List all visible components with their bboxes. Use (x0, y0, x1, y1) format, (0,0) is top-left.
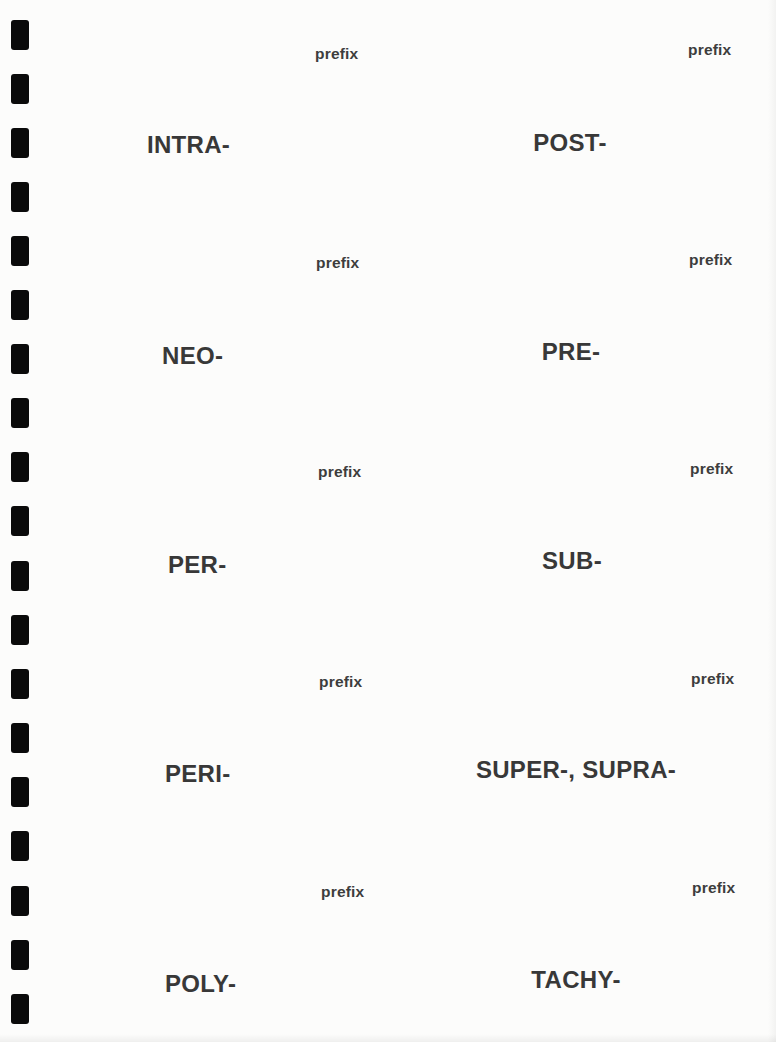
card-term-sub: SUB- (542, 547, 602, 575)
binding-hole (11, 344, 29, 374)
binding-hole (11, 128, 29, 158)
page-edge-shadow (768, 0, 776, 1042)
card-term-neo: NEO- (162, 342, 223, 370)
card-term-tachy: TACHY- (531, 966, 620, 994)
card-label-super-supra: prefix (691, 670, 734, 688)
binding-hole (11, 723, 29, 753)
binding-hole (11, 669, 29, 699)
card-label-per: prefix (318, 463, 361, 481)
binding-hole (11, 994, 29, 1024)
card-term-peri: PERI- (165, 760, 231, 788)
card-label-post: prefix (688, 41, 731, 59)
binding-hole (11, 886, 29, 916)
binding-hole (11, 831, 29, 861)
binding-hole (11, 236, 29, 266)
card-label-neo: prefix (316, 254, 359, 272)
card-label-tachy: prefix (692, 879, 735, 897)
card-label-peri: prefix (319, 673, 362, 691)
card-term-poly: POLY- (165, 970, 236, 998)
card-term-super-supra: SUPER-, SUPRA- (476, 756, 676, 784)
card-label-sub: prefix (690, 460, 733, 478)
binding-hole (11, 74, 29, 104)
binding-hole (11, 506, 29, 536)
card-label-intra: prefix (315, 45, 358, 63)
binding-hole (11, 777, 29, 807)
binding-hole (11, 290, 29, 320)
card-label-pre: prefix (689, 251, 732, 269)
binding-hole (11, 398, 29, 428)
binding-hole (11, 615, 29, 645)
card-term-intra: INTRA- (147, 131, 230, 159)
card-term-per: PER- (168, 551, 227, 579)
binding-hole (11, 561, 29, 591)
card-term-post: POST- (533, 129, 607, 157)
binding-hole (11, 182, 29, 212)
card-label-poly: prefix (321, 883, 364, 901)
binding-hole (11, 20, 29, 50)
page-bottom-shadow (0, 1034, 776, 1042)
binding-hole (11, 940, 29, 970)
binding-hole (11, 452, 29, 482)
card-term-pre: PRE- (542, 338, 601, 366)
